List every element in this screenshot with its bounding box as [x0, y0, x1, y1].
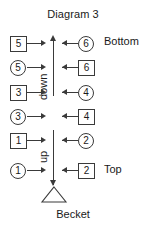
connector-right: [62, 92, 78, 93]
node-right-square: 2: [78, 163, 95, 179]
connector-right: [62, 140, 78, 141]
arrow-right-icon: [41, 137, 46, 143]
node-right-circle: 6: [78, 36, 94, 52]
diagram-row: 3 4: [0, 107, 146, 127]
diagram-row: 3 4: [0, 83, 146, 103]
connector-right: [62, 170, 78, 171]
triangle-becket-icon: [40, 186, 68, 204]
label-top: Top: [104, 163, 122, 175]
arrow-right-icon: [41, 113, 46, 119]
diagram-row: 1 2: [0, 161, 146, 181]
arrow-right-icon: [41, 89, 46, 95]
node-left-square: 3: [10, 85, 27, 101]
connector-right: [62, 116, 78, 117]
label-bottom: Bottom: [104, 35, 139, 47]
page-title: Diagram 3: [0, 8, 146, 20]
diagram-row: 1 2: [0, 131, 146, 151]
arrow-right-icon: [41, 64, 46, 70]
node-left-circle: 1: [10, 163, 26, 179]
node-left-circle: 3: [10, 109, 26, 125]
node-right-circle: 4: [78, 85, 94, 101]
node-right-square: 4: [78, 109, 95, 125]
diagram-canvas: Diagram 3 down up 5 6 5 6 3 4 3: [0, 0, 146, 231]
node-right-square: 6: [78, 60, 95, 76]
connector-right: [62, 43, 78, 44]
node-left-square: 1: [10, 133, 27, 149]
arrow-right-icon: [41, 40, 46, 46]
diagram-caption: Becket: [0, 208, 146, 220]
diagram-row: 5 6: [0, 58, 146, 78]
node-left-circle: 5: [10, 60, 26, 76]
node-left-square: 5: [10, 36, 27, 52]
arrow-right-icon: [41, 167, 46, 173]
node-right-circle: 2: [78, 133, 94, 149]
connector-right: [62, 67, 78, 68]
